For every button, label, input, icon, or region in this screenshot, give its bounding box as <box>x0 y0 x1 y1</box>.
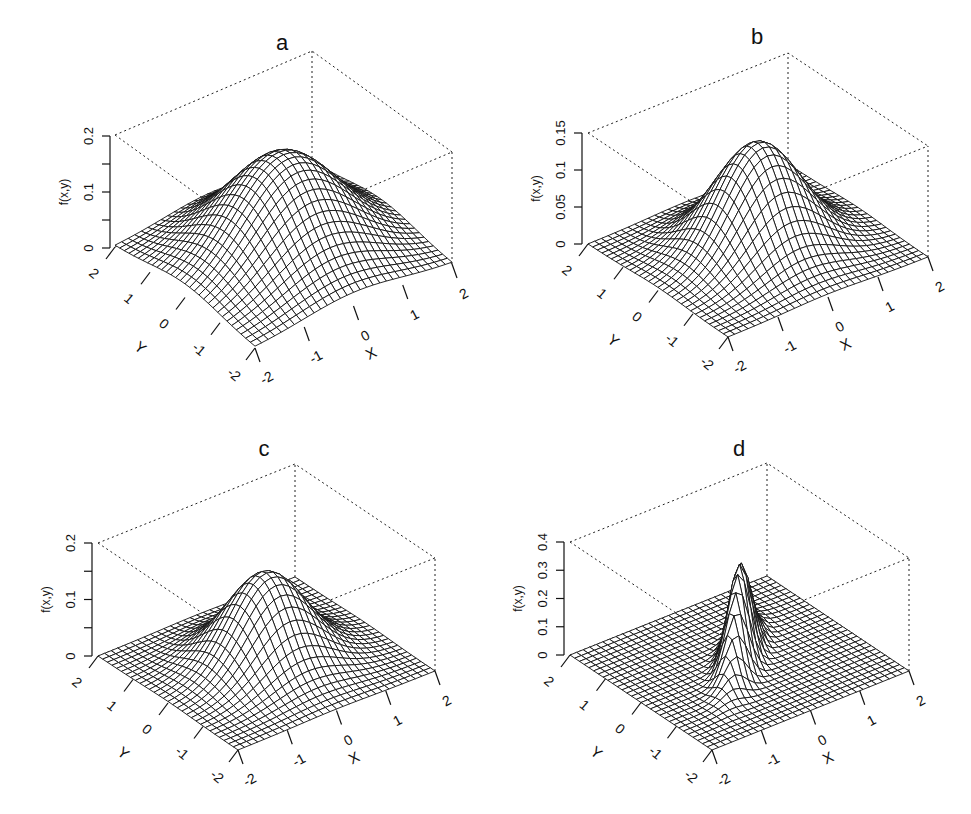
y-tick-label: -1 <box>662 330 682 350</box>
y-tick-label: 0 <box>612 720 628 737</box>
y-tick-label: -1 <box>646 742 666 762</box>
x-tick-label: -1 <box>780 337 799 357</box>
z-tick-label: 0 <box>553 240 568 247</box>
x-tick-label: 2 <box>456 285 471 303</box>
y-tick-label: 1 <box>121 290 137 307</box>
z-tick-label: 0 <box>63 652 78 659</box>
y-tick-label: 2 <box>69 674 85 691</box>
z-tick-label: 0 <box>81 244 96 251</box>
y-tick-label: 1 <box>577 696 593 713</box>
z-tick-label: 0.1 <box>535 618 550 636</box>
y-axis-label: Y <box>587 743 606 762</box>
z-axis-label: f(x,y) <box>529 175 543 202</box>
z-tick-label: 0.15 <box>553 120 568 145</box>
y-tick-label: -2 <box>681 766 701 786</box>
y-axis-label: Y <box>114 743 133 762</box>
x-axis-label: X <box>346 748 363 768</box>
z-tick-label: 0.4 <box>535 533 550 551</box>
z-tick-label: 0 <box>535 651 550 658</box>
panel-d: d 00.10.20.30.4f(x,y)-2-1012X-2-1012Y <box>485 400 970 800</box>
y-tick-label: 0 <box>156 315 172 332</box>
x-tick-label: 1 <box>407 306 422 324</box>
z-tick-label: 0.2 <box>535 589 550 607</box>
y-tick-label: 1 <box>104 697 120 714</box>
y-tick-label: -2 <box>224 364 244 384</box>
x-axis-label: X <box>837 334 854 354</box>
x-tick-label: 1 <box>390 711 405 729</box>
y-tick-label: 2 <box>541 673 557 690</box>
x-tick-label: -1 <box>764 750 783 770</box>
z-tick-label: 0.2 <box>81 127 96 145</box>
z-axis-label: f(x,y) <box>511 585 525 612</box>
surface-plot-b: 00.050.10.15f(x,y)-2-1012X-2-1012Y <box>485 0 971 400</box>
x-tick-label: -1 <box>307 347 326 367</box>
z-axis-label: f(x,y) <box>39 586 53 613</box>
x-axis-label: X <box>820 748 837 768</box>
y-tick-label: -1 <box>172 743 192 763</box>
y-tick-label: -2 <box>207 766 227 786</box>
y-tick-label: 0 <box>629 308 645 325</box>
x-tick-label: 0 <box>832 318 847 336</box>
panel-c: c 00.10.2f(x,y)-2-1012X-2-1012Y <box>0 400 485 800</box>
x-tick-label: 0 <box>358 327 373 345</box>
y-tick-label: -1 <box>189 339 209 359</box>
surface-plot-c: 00.10.2f(x,y)-2-1012X-2-1012Y <box>0 400 485 814</box>
z-tick-label: 0.1 <box>553 161 568 179</box>
y-axis-label: Y <box>131 338 150 357</box>
x-tick-label: 1 <box>864 711 879 729</box>
z-tick-label: 0.1 <box>63 590 78 608</box>
z-tick-label: 0.3 <box>535 561 550 579</box>
x-tick-label: 2 <box>932 278 947 296</box>
x-tick-label: 2 <box>439 692 454 710</box>
x-tick-label: 0 <box>815 731 830 749</box>
y-tick-label: 0 <box>139 721 155 738</box>
z-axis-label: f(x,y) <box>57 179 71 206</box>
x-tick-label: -1 <box>290 750 309 770</box>
panel-a: a 00.10.2f(x,y)-2-1012X-2-1012Y <box>0 0 485 400</box>
y-axis-label: Y <box>604 331 623 350</box>
z-tick-label: 0.1 <box>81 183 96 201</box>
x-tick-label: -2 <box>714 770 733 790</box>
x-tick-label: -2 <box>240 770 259 790</box>
surface-plot-a: 00.10.2f(x,y)-2-1012X-2-1012Y <box>0 0 485 400</box>
z-tick-label: 0.2 <box>63 534 78 552</box>
z-tick-label: 0.05 <box>553 194 568 219</box>
panel-b: b 00.050.10.15f(x,y)-2-1012X-2-1012Y <box>485 0 970 400</box>
x-tick-label: -2 <box>257 368 276 388</box>
x-tick-label: -2 <box>730 357 749 377</box>
y-tick-label: 2 <box>559 262 575 279</box>
x-tick-label: 0 <box>341 731 356 749</box>
y-tick-label: -2 <box>697 353 717 373</box>
surface-plot-d: 00.10.20.30.4f(x,y)-2-1012X-2-1012Y <box>485 400 971 814</box>
y-tick-label: 1 <box>594 285 610 302</box>
x-tick-label: 1 <box>882 298 897 316</box>
y-tick-label: 2 <box>86 265 102 282</box>
x-axis-label: X <box>363 343 380 363</box>
x-tick-label: 2 <box>913 692 928 710</box>
